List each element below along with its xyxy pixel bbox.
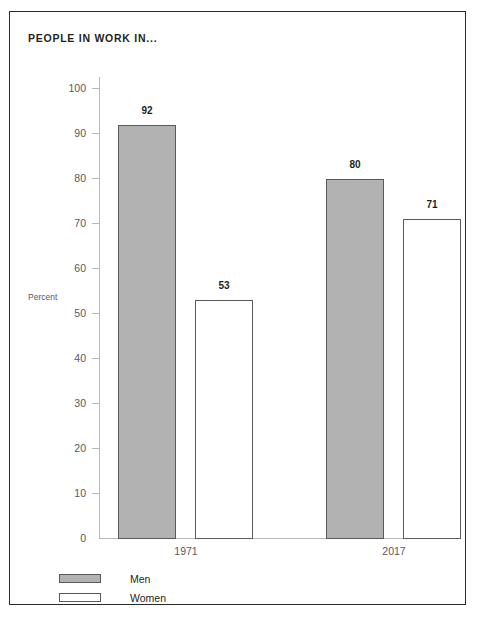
bar-men-2017[interactable] [326, 179, 384, 539]
legend-item-women[interactable]: Women [59, 588, 166, 607]
plot-area: 100 90 80 70 60 50 40 30 20 10 0 Percent [10, 12, 467, 606]
bar-value-women-2017: 71 [426, 199, 437, 210]
legend-swatch-women-icon [59, 593, 101, 602]
legend-item-men[interactable]: Men [59, 569, 166, 588]
bar-women-1971[interactable] [195, 300, 253, 539]
legend-swatch-men-icon [59, 574, 101, 583]
bar-value-men-1971: 92 [141, 105, 152, 116]
chart-legend: Men Women [59, 569, 166, 607]
bar-women-2017[interactable] [403, 219, 461, 539]
bar-value-men-2017: 80 [349, 159, 360, 170]
chart-figure: PEOPLE IN WORK IN... 100 90 80 70 60 [9, 11, 466, 605]
legend-label-women: Women [130, 592, 166, 604]
bar-value-women-1971: 53 [218, 280, 229, 291]
x-category-label-2017: 2017 [382, 545, 405, 557]
bars-layer [10, 12, 467, 539]
bar-men-1971[interactable] [118, 125, 176, 539]
x-category-label-1971: 1971 [174, 545, 197, 557]
legend-label-men: Men [130, 573, 150, 585]
